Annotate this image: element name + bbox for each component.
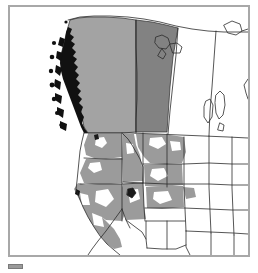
legend-swatch (8, 264, 23, 269)
region-oregon (80, 158, 122, 185)
figure-panel (0, 0, 258, 273)
map-legend (8, 264, 28, 273)
region-utah (122, 183, 146, 220)
map-canvas (10, 7, 248, 255)
idaho-unshaded-patch (126, 143, 134, 154)
map-frame (8, 5, 250, 257)
